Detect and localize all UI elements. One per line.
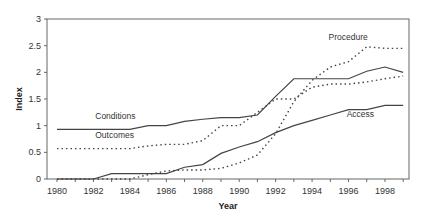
series-label-conditions: Conditions xyxy=(95,111,135,121)
x-tick-label: 1988 xyxy=(193,186,213,196)
x-tick-label: 1994 xyxy=(302,186,322,196)
x-tick-label: 1990 xyxy=(229,186,249,196)
y-tick-label: 2 xyxy=(36,67,41,77)
x-tick-label: 1980 xyxy=(47,186,67,196)
y-tick-label: 0.5 xyxy=(28,147,41,157)
line-chart: 00.511.522.53 19801982198419861988199019… xyxy=(0,0,428,218)
y-tick-label: 1 xyxy=(36,121,41,131)
y-tick-label: 3 xyxy=(36,14,41,24)
y-axis: 00.511.522.53 xyxy=(28,14,47,184)
x-axis-title: Year xyxy=(218,201,238,211)
x-tick-label: 1998 xyxy=(375,186,395,196)
y-tick-label: 1.5 xyxy=(28,94,41,104)
plot-area xyxy=(47,19,409,179)
x-tick-label: 1992 xyxy=(266,186,286,196)
y-tick-label: 2.5 xyxy=(28,41,41,51)
y-axis-title: Index xyxy=(14,87,24,111)
x-tick-label: 1982 xyxy=(83,186,103,196)
y-tick-label: 0 xyxy=(36,174,41,184)
x-tick-label: 1984 xyxy=(120,186,140,196)
x-tick-label: 1986 xyxy=(156,186,176,196)
x-axis: 1980198219841986198819901992199419961998 xyxy=(47,179,403,196)
x-tick-label: 1996 xyxy=(339,186,359,196)
series-label-procedure: Procedure xyxy=(328,32,367,42)
series-label-access: Access xyxy=(347,109,374,119)
series-label-outcomes: Outcomes xyxy=(95,130,134,140)
